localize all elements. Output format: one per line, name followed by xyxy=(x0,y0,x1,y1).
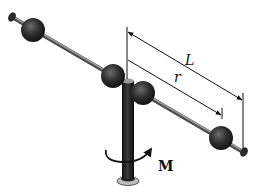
dumbbell-diagram: L r M xyxy=(0,0,253,195)
outer-left-sphere xyxy=(21,18,45,42)
inner-length-label: r xyxy=(174,69,182,85)
outer-right-sphere xyxy=(209,126,233,150)
torque-label: M xyxy=(158,158,174,174)
outer-length-label: L xyxy=(184,52,194,68)
inner-left-sphere xyxy=(101,64,125,88)
inner-right-sphere xyxy=(131,81,155,105)
